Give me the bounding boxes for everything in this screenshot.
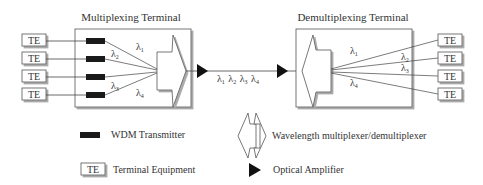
svg-text:WDM Transmitter: WDM Transmitter [111,129,186,140]
svg-text:TE: TE [444,89,456,100]
te-box: TE [438,34,462,46]
mux-terminal-title: Multiplexing Terminal [81,11,181,23]
multiplexing-terminal: Multiplexing Terminal TE TE TE TE [22,11,191,107]
svg-text:TE: TE [444,35,456,46]
legend-terminal-equipment: TE Terminal Equipment [81,163,196,175]
svg-text:TE: TE [28,71,40,82]
legend: WDM Transmitter TE Terminal Equipment Wa… [80,113,427,177]
svg-text:TE: TE [87,164,99,175]
svg-text:Terminal Equipment: Terminal Equipment [113,164,196,175]
te-box: TE [22,88,46,100]
svg-text:TE: TE [444,53,456,64]
optical-amplifier-icon [249,163,261,177]
te-box: TE [22,52,46,64]
te-box: TE [22,34,46,46]
svg-text:Optical Amplifier: Optical Amplifier [273,164,344,175]
te-box: TE [438,70,462,82]
demultiplexing-terminal: Demultiplexing Terminal λ1 λ2 λ3 λ4 TE T… [296,11,462,107]
svg-text:Wavelength multiplexer/demulti: Wavelength multiplexer/demultiplexer [272,130,427,141]
wdm-transmitter [86,38,105,44]
optical-link: λ1 λ2 λ3 λ4 [186,64,296,86]
wdm-transmitter-icon [80,132,100,138]
wdm-transmitter [86,56,105,62]
wdm-transmitter [86,74,105,80]
svg-text:TE: TE [28,35,40,46]
legend-optical-amplifier: Optical Amplifier [249,163,344,177]
optical-amplifier-icon [277,64,288,78]
te-box: TE [438,52,462,64]
svg-text:TE: TE [444,71,456,82]
wdm-transmitter [86,92,105,98]
link-wavelengths-label: λ1 λ2 λ3 λ4 [217,73,259,86]
svg-text:TE: TE [28,53,40,64]
demux-terminal-title: Demultiplexing Terminal [297,11,408,23]
te-box: TE [438,88,462,100]
legend-wdm-transmitter: WDM Transmitter [80,129,186,140]
svg-text:TE: TE [28,89,40,100]
legend-mux-demux: Wavelength multiplexer/demultiplexer [238,113,427,158]
wdm-system-diagram: Multiplexing Terminal TE TE TE TE [0,0,483,185]
te-box: TE [22,70,46,82]
multiplexer-icon [238,113,256,158]
optical-amplifier-icon [197,64,208,78]
